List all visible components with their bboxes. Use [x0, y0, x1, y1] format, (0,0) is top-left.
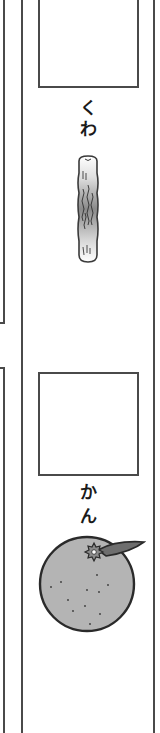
kana-ka: か — [68, 482, 108, 502]
kana-ku: く — [68, 98, 108, 118]
writing-box-kan[interactable] — [38, 372, 139, 476]
strip-right-border — [153, 0, 155, 733]
mulberry-branch-icon — [74, 153, 102, 265]
left-card-corner-top — [0, 322, 5, 324]
left-card-edge-bottom — [3, 367, 5, 733]
left-card-edge-top — [3, 0, 5, 324]
writing-box-kuwa[interactable] — [38, 0, 139, 88]
mandarin-orange-icon — [36, 532, 146, 634]
kana-n: ん — [68, 506, 108, 526]
strip-left-border — [21, 0, 23, 733]
kana-wa: わ — [68, 119, 108, 139]
